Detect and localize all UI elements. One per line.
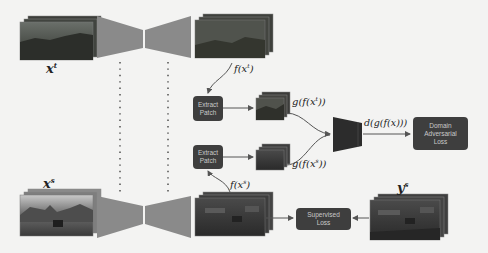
box-line: Extract <box>198 101 218 109</box>
box-line: Adversarial <box>424 130 457 138</box>
supervised-loss-box: Supervised Loss <box>296 208 351 230</box>
box-line: Supervised <box>307 211 340 219</box>
arrow-patch-top-to-disc <box>286 113 330 134</box>
label-target-patch: g(f(xt)) <box>292 95 326 107</box>
box-line: Patch <box>198 157 218 165</box>
box-line: Extract <box>198 149 218 157</box>
label-source-features: f(xs) <box>230 178 250 190</box>
label-source-label: ys <box>397 180 409 195</box>
discriminator <box>333 117 362 152</box>
label-source-patch: g(f(xs)) <box>292 157 326 169</box>
box-line: Loss <box>424 138 457 146</box>
extract-patch-bottom-box: Extract Patch <box>193 145 223 169</box>
label-target-input: xt <box>46 61 57 76</box>
decoder-bottom <box>145 196 191 238</box>
arrow-ft-to-extract <box>208 63 232 93</box>
label-target-features: f(xt) <box>234 62 254 74</box>
encoder-bottom <box>97 196 143 238</box>
target-patch-stack <box>256 92 290 120</box>
source-image-stack <box>20 189 101 236</box>
source-patch-stack <box>256 144 290 170</box>
encoder-top <box>97 16 143 58</box>
source-label-stack <box>370 194 448 240</box>
source-feature-stack <box>195 192 273 236</box>
label-source-input: xs <box>43 176 55 191</box>
box-line: Domain <box>424 122 457 130</box>
target-feature-stack <box>195 14 273 58</box>
domain-adversarial-loss-box: Domain Adversarial Loss <box>413 117 468 150</box>
domain-adaptation-diagram: Extract Patch Extract Patch Domain Adver… <box>0 0 488 253</box>
decoder-top <box>145 16 191 58</box>
target-image-stack <box>20 16 101 60</box>
box-line: Patch <box>198 109 218 117</box>
arrow-fs-to-extract <box>208 171 230 192</box>
box-line: Loss <box>307 219 340 227</box>
extract-patch-top-box: Extract Patch <box>193 96 223 121</box>
label-discriminator-output: d(g(f(x))) <box>364 117 407 128</box>
